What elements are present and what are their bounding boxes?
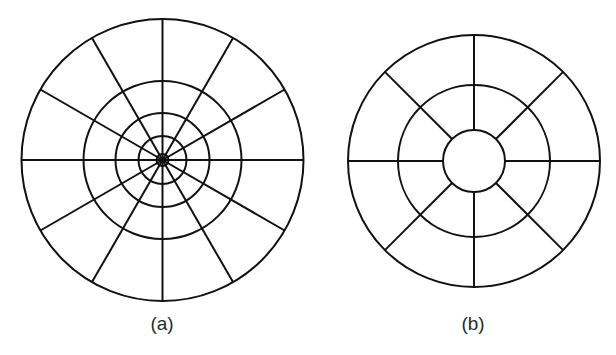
spoke-line — [92, 38, 163, 160]
spoke-line — [385, 183, 452, 250]
spoke-line — [163, 90, 285, 161]
spoke-line — [496, 72, 563, 139]
spoke-line — [385, 72, 452, 139]
spoke-line — [163, 160, 234, 282]
spoke-line — [40, 160, 162, 231]
polar-grid-a — [22, 19, 304, 301]
spoke-line — [496, 183, 563, 250]
polar-grid-b — [348, 35, 600, 287]
spoke-line — [163, 160, 285, 231]
inner-ring — [443, 130, 505, 192]
caption-a: (a) — [150, 313, 173, 335]
spoke-line — [163, 38, 234, 160]
caption-b: (b) — [461, 313, 484, 335]
spoke-line — [40, 90, 162, 161]
figure-canvas — [0, 0, 616, 355]
spoke-line — [92, 160, 163, 282]
